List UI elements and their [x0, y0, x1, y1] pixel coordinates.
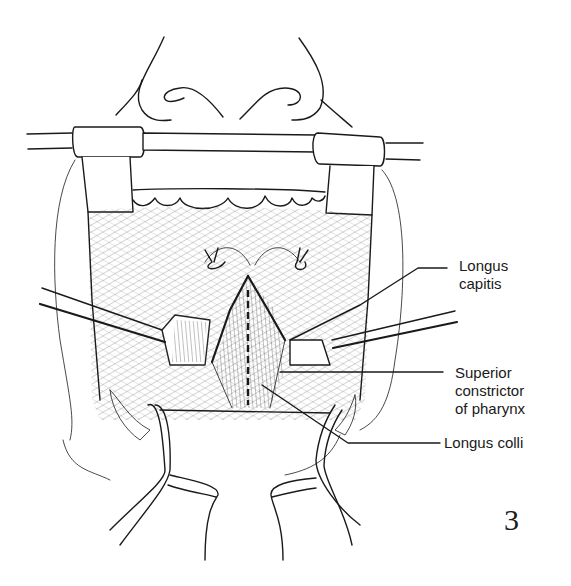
label-longus-capitis: Longus capitis: [459, 257, 508, 293]
label-longus-colli: Longus colli: [444, 434, 523, 452]
nose-outline: [116, 37, 352, 127]
figure-number: 3: [504, 503, 519, 537]
label-superior-constrictor: Superior constrictor of pharynx: [455, 364, 525, 418]
upper-teeth: [133, 189, 325, 209]
tongue-depressor: [110, 405, 360, 560]
anatomical-drawing: [0, 0, 571, 586]
transoral-surgery-illustration: Longus capitis Superior constrictor of p…: [0, 0, 571, 586]
